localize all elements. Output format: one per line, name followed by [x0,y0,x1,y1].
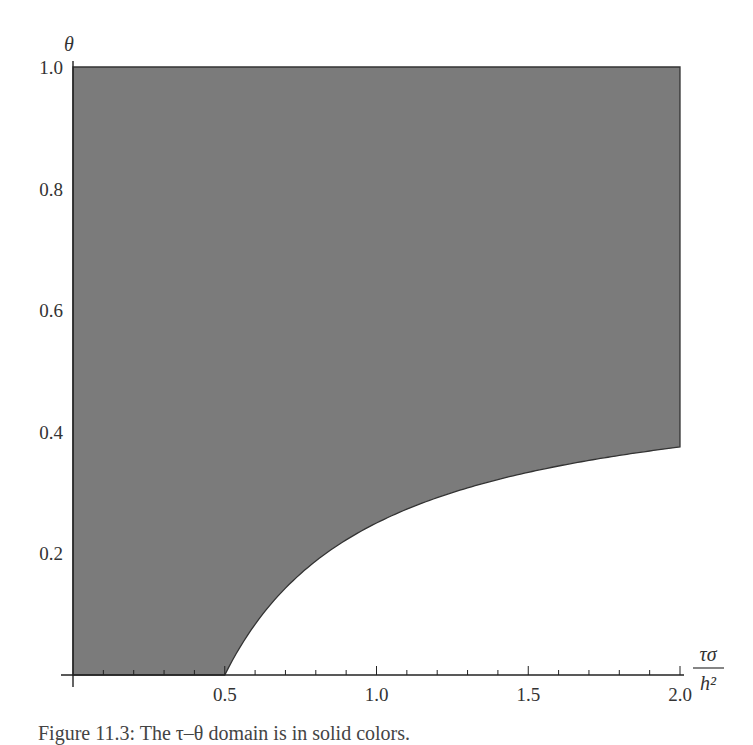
y-tick-label: 0.6 [39,300,63,321]
stability-region-chart: 0.51.01.52.00.20.40.60.81.0θτσh² [0,0,753,720]
x-tick-label: 1.0 [365,684,389,705]
x-tick-label: 2.0 [668,684,692,705]
x-tick-label: 0.5 [213,684,237,705]
plot-area: 0.51.01.52.00.20.40.60.81.0θτσh² [39,33,724,705]
figure-caption: Figure 11.3: The τ–θ domain is in solid … [38,722,410,745]
stable-region [73,67,680,675]
x-tick-label: 1.5 [516,684,540,705]
y-axis-label: θ [64,33,74,55]
y-tick-label: 1.0 [39,57,63,78]
x-axis-label-numerator: τσ [699,643,717,665]
y-tick-label: 0.8 [39,179,63,200]
y-tick-label: 0.2 [39,543,63,564]
x-axis-label-denominator: h² [700,672,717,694]
y-tick-label: 0.4 [39,422,63,443]
